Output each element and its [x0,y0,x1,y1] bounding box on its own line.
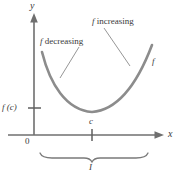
x-axis [8,131,164,139]
x-axis-label: x [168,129,172,139]
f-decreasing-word: decreasing [45,36,83,46]
interval-brace [40,153,148,162]
curve-f-label: f [152,57,155,66]
origin-label: 0 [25,137,30,146]
figure-graphic [0,0,179,176]
y-axis [30,13,38,135]
f-increasing-annotation: f increasing [92,17,134,26]
leader-line-increasing [104,28,130,66]
figure-container: y x 0 f (c) c f decreasing f increasing … [0,0,179,176]
f-decreasing-annotation: f decreasing [40,37,83,46]
c-label: c [89,117,93,126]
leader-line-decreasing [60,47,79,78]
function-curve [42,45,152,112]
f-of-c-label: f (c) [2,103,17,112]
interval-label: I [89,163,92,172]
y-axis-label: y [30,1,34,11]
f-increasing-word: increasing [97,16,134,26]
